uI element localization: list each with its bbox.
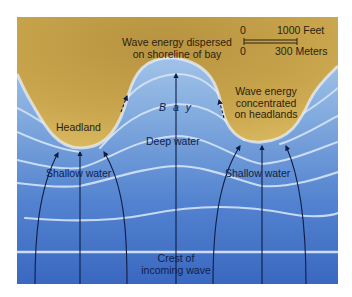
label-energy-concentrated-line3: on headlands (226, 109, 306, 121)
label-shallow-water-left: Shallow water (46, 168, 111, 180)
label-deep-water: Deep water (146, 136, 200, 148)
label-energy-dispersed-line2: on shoreline of bay (117, 49, 237, 61)
label-crest-of-incoming-wave: Crest of incoming wave (136, 253, 216, 276)
label-bay: B a y (159, 102, 193, 114)
scale-feet-start: 0 (240, 25, 246, 37)
label-shallow-water-right: Shallow water (225, 168, 290, 180)
label-crest-line2: incoming wave (136, 265, 216, 277)
label-energy-dispersed: Wave energy dispersed on shoreline of ba… (117, 37, 237, 60)
label-energy-concentrated-line1: Wave energy (226, 86, 306, 98)
label-energy-dispersed-line1: Wave energy dispersed (117, 37, 237, 49)
scale-meters-start: 0 (240, 46, 246, 58)
scale-meters-end: 300 Meters (275, 46, 328, 58)
scale-feet-end: 1000 Feet (277, 25, 324, 37)
wave-refraction-diagram: 0 1000 Feet 0 300 Meters Wave energy dis… (0, 0, 352, 297)
label-energy-concentrated: Wave energy concentrated on headlands (226, 86, 306, 121)
label-crest-line1: Crest of (136, 253, 216, 265)
label-headland: Headland (56, 122, 101, 134)
